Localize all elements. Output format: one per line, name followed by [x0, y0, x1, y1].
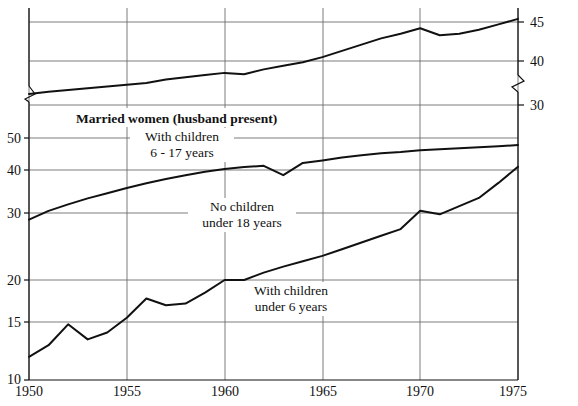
left-tick-label-30: 30: [7, 206, 21, 221]
x-tick-label-1960: 1960: [211, 384, 239, 399]
axes: [25, 8, 524, 380]
x-axis-labels: 1950 1955 1960 1965 1970 1975: [15, 384, 527, 399]
left-tick-label-15: 15: [7, 315, 21, 330]
series1-label-line1: With children: [145, 129, 219, 144]
chart-canvas: 50 40 30 20 15 10 45 40 30 1950 1955 196…: [0, 0, 578, 406]
chart-annotations: Married women (husband present) With chi…: [68, 108, 346, 316]
line-chart-svg: 50 40 30 20 15 10 45 40 30 1950 1955 196…: [0, 0, 578, 406]
series3-label-line2: under 6 years: [255, 299, 328, 314]
chart-title: Married women (husband present): [76, 111, 277, 126]
series2-label-line2: under 18 years: [202, 215, 281, 230]
x-tick-label-1965: 1965: [309, 384, 337, 399]
right-axis-labels: 45 40 30: [530, 15, 544, 113]
left-tick-label-20: 20: [7, 273, 21, 288]
x-tick-label-1975: 1975: [499, 384, 527, 399]
series2-label-line1: No children: [210, 199, 274, 214]
series-line-with-children-6-17: [29, 19, 518, 94]
left-tick-label-40: 40: [7, 163, 21, 178]
right-tick-label-30: 30: [530, 98, 544, 113]
series3-label-line1: With children: [254, 283, 328, 298]
x-tick-label-1970: 1970: [406, 384, 434, 399]
x-tick-label-1950: 1950: [15, 384, 43, 399]
series1-label-line2: 6 - 17 years: [150, 145, 213, 160]
left-tick-label-50: 50: [7, 131, 21, 146]
left-axis-labels: 50 40 30 20 15 10: [7, 131, 21, 387]
x-tick-label-1955: 1955: [113, 384, 141, 399]
right-tick-label-40: 40: [530, 54, 544, 69]
right-tick-label-45: 45: [530, 15, 544, 30]
